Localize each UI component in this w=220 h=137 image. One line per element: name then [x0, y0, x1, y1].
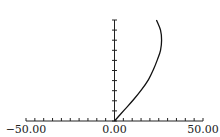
x-tick-label-zero: 0.00	[102, 123, 127, 136]
y-axis	[112, 20, 117, 121]
series-layer	[115, 20, 162, 121]
x-tick-label-min: −50.00	[6, 123, 47, 136]
series-line-curve	[115, 20, 162, 121]
chart: −50.00 0.00 50.00	[0, 0, 220, 137]
x-tick-labels: −50.00 0.00 50.00	[6, 123, 219, 136]
x-tick-label-max: 50.00	[187, 123, 219, 136]
